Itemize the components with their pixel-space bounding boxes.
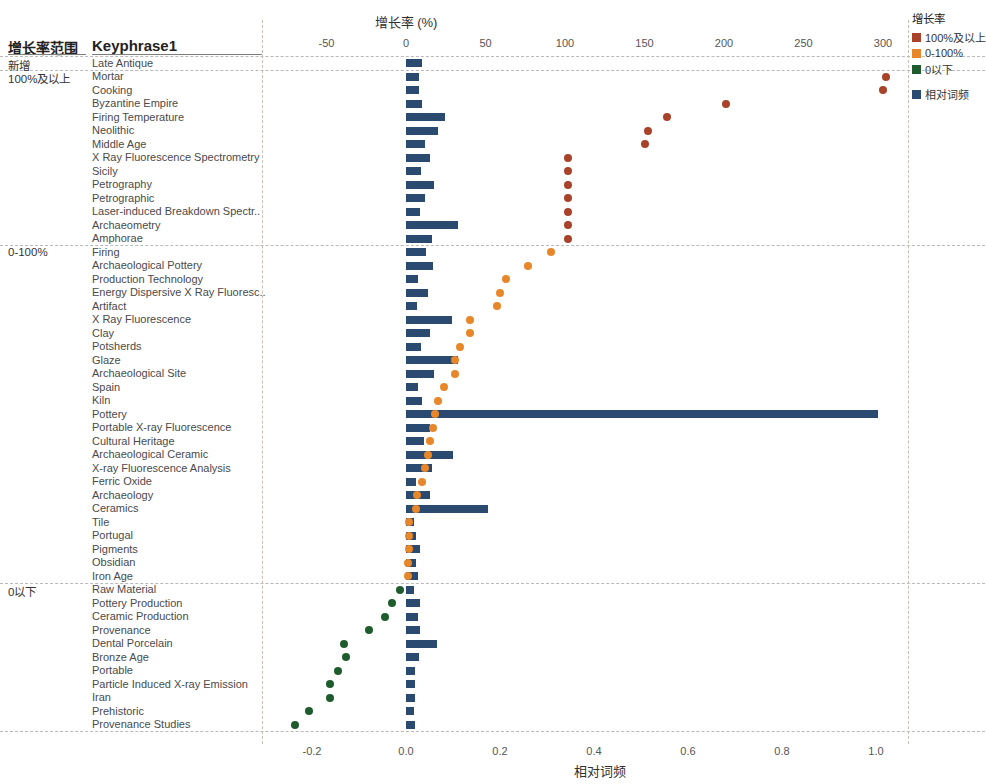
chart-row[interactable]: Firing — [0, 245, 985, 259]
relative-frequency-bar[interactable] — [406, 181, 434, 189]
relative-frequency-bar[interactable] — [406, 194, 425, 202]
chart-row[interactable]: Prehistoric — [0, 704, 985, 718]
growth-rate-dot[interactable] — [641, 140, 649, 148]
relative-frequency-bar[interactable] — [406, 140, 425, 148]
chart-row[interactable]: Particle Induced X-ray Emission — [0, 677, 985, 691]
relative-frequency-bar[interactable] — [406, 262, 433, 270]
growth-rate-dot[interactable] — [404, 559, 412, 567]
relative-frequency-bar[interactable] — [406, 59, 422, 67]
growth-rate-dot[interactable] — [547, 248, 555, 256]
chart-row[interactable]: Dental Porcelain — [0, 637, 985, 651]
growth-rate-dot[interactable] — [429, 424, 437, 432]
chart-row[interactable]: Cooking — [0, 83, 985, 97]
chart-row[interactable]: Archaeometry — [0, 218, 985, 232]
chart-row[interactable]: Ceramic Production — [0, 610, 985, 624]
relative-frequency-bar[interactable] — [406, 424, 430, 432]
chart-row[interactable]: Pigments — [0, 542, 985, 556]
growth-rate-dot[interactable] — [524, 262, 532, 270]
growth-rate-dot[interactable] — [326, 680, 334, 688]
relative-frequency-bar[interactable] — [406, 154, 430, 162]
growth-rate-dot[interactable] — [564, 154, 572, 162]
relative-frequency-bar[interactable] — [406, 613, 418, 621]
legend-item-mid[interactable]: 0-100% — [912, 47, 984, 59]
chart-row[interactable]: Portugal — [0, 529, 985, 543]
relative-frequency-bar[interactable] — [406, 73, 419, 81]
chart-row[interactable]: Clay — [0, 326, 985, 340]
growth-rate-dot[interactable] — [440, 383, 448, 391]
chart-row[interactable]: Pottery — [0, 407, 985, 421]
relative-frequency-bar[interactable] — [406, 383, 418, 391]
chart-row[interactable]: X Ray Fluorescence Spectrometry — [0, 151, 985, 165]
legend-item-freq[interactable]: 相对词频 — [912, 86, 984, 102]
chart-row[interactable]: Cultural Heritage — [0, 434, 985, 448]
relative-frequency-bar[interactable] — [406, 478, 416, 486]
growth-rate-dot[interactable] — [493, 302, 501, 310]
chart-row[interactable]: Ceramics — [0, 502, 985, 516]
chart-row[interactable]: X-ray Fluorescence Analysis — [0, 461, 985, 475]
relative-frequency-bar[interactable] — [406, 356, 458, 364]
chart-row[interactable]: Sicily — [0, 164, 985, 178]
chart-row[interactable]: Amphorae — [0, 232, 985, 246]
growth-rate-dot[interactable] — [412, 505, 420, 513]
chart-row[interactable]: Iran — [0, 691, 985, 705]
relative-frequency-bar[interactable] — [406, 127, 438, 135]
chart-row[interactable]: Ferric Oxide — [0, 475, 985, 489]
growth-rate-dot[interactable] — [334, 667, 342, 675]
chart-row[interactable]: Potsherds — [0, 340, 985, 354]
chart-row[interactable]: Portable — [0, 664, 985, 678]
growth-rate-dot[interactable] — [418, 478, 426, 486]
growth-rate-dot[interactable] — [502, 275, 510, 283]
relative-frequency-bar[interactable] — [406, 599, 420, 607]
chart-row[interactable]: X Ray Fluorescence — [0, 313, 985, 327]
chart-row[interactable]: Production Technology — [0, 272, 985, 286]
growth-rate-dot[interactable] — [388, 599, 396, 607]
growth-rate-dot[interactable] — [496, 289, 504, 297]
growth-rate-dot[interactable] — [405, 532, 413, 540]
chart-row[interactable]: Glaze — [0, 353, 985, 367]
relative-frequency-bar[interactable] — [406, 100, 422, 108]
growth-rate-dot[interactable] — [663, 113, 671, 121]
chart-row[interactable]: Firing Temperature — [0, 110, 985, 124]
growth-rate-dot[interactable] — [342, 653, 350, 661]
chart-row[interactable]: Tile — [0, 515, 985, 529]
growth-rate-dot[interactable] — [451, 356, 459, 364]
growth-rate-dot[interactable] — [564, 167, 572, 175]
chart-row[interactable]: Pottery Production — [0, 596, 985, 610]
chart-row[interactable]: Obsidian — [0, 556, 985, 570]
chart-row[interactable]: Laser-induced Breakdown Spectr.. — [0, 205, 985, 219]
chart-row[interactable]: Petrographic — [0, 191, 985, 205]
relative-frequency-bar[interactable] — [406, 410, 878, 418]
relative-frequency-bar[interactable] — [406, 694, 415, 702]
growth-rate-dot[interactable] — [381, 613, 389, 621]
growth-rate-dot[interactable] — [426, 437, 434, 445]
chart-row[interactable]: Artifact — [0, 299, 985, 313]
growth-rate-dot[interactable] — [424, 451, 432, 459]
growth-rate-dot[interactable] — [404, 572, 412, 580]
growth-rate-dot[interactable] — [365, 626, 373, 634]
chart-row[interactable]: Middle Age — [0, 137, 985, 151]
chart-row[interactable]: Petrography — [0, 178, 985, 192]
growth-rate-dot[interactable] — [466, 329, 474, 337]
relative-frequency-bar[interactable] — [406, 707, 414, 715]
relative-frequency-bar[interactable] — [406, 343, 421, 351]
relative-frequency-bar[interactable] — [406, 721, 415, 729]
growth-rate-dot[interactable] — [326, 694, 334, 702]
growth-rate-dot[interactable] — [396, 586, 404, 594]
legend-item-low[interactable]: 0以下 — [912, 61, 984, 77]
chart-row[interactable]: Archaeological Ceramic — [0, 448, 985, 462]
relative-frequency-bar[interactable] — [406, 208, 420, 216]
relative-frequency-bar[interactable] — [406, 329, 430, 337]
growth-rate-dot[interactable] — [879, 86, 887, 94]
growth-rate-dot[interactable] — [451, 370, 459, 378]
growth-rate-dot[interactable] — [434, 397, 442, 405]
chart-row[interactable]: Mortar — [0, 70, 985, 84]
relative-frequency-bar[interactable] — [406, 167, 421, 175]
chart-row[interactable]: Energy Dispersive X Ray Fluoresc.. — [0, 286, 985, 300]
growth-rate-dot[interactable] — [305, 707, 313, 715]
relative-frequency-bar[interactable] — [406, 316, 452, 324]
relative-frequency-bar[interactable] — [406, 302, 417, 310]
relative-frequency-bar[interactable] — [406, 653, 419, 661]
relative-frequency-bar[interactable] — [406, 235, 432, 243]
relative-frequency-bar[interactable] — [406, 370, 434, 378]
relative-frequency-bar[interactable] — [406, 397, 422, 405]
